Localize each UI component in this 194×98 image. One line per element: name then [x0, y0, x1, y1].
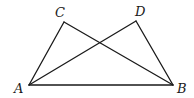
vertex-label-c: C: [55, 5, 65, 20]
segments: [29, 21, 173, 85]
geometry-diagram: A B C D: [0, 0, 194, 98]
vertex-label-d: D: [134, 4, 146, 19]
vertex-labels: A B C D: [13, 4, 187, 96]
segment-ac: [29, 22, 64, 85]
segment-db: [136, 21, 173, 85]
vertex-label-b: B: [176, 81, 187, 96]
segment-ad: [29, 21, 136, 85]
vertex-label-a: A: [13, 81, 23, 96]
